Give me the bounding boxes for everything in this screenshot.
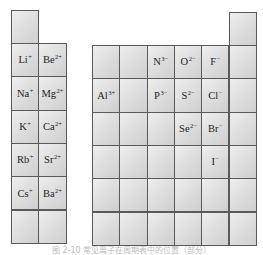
ion-cell-cl: Cl− — [201, 78, 229, 112]
empty-cell — [92, 145, 120, 179]
empty-cell — [119, 145, 147, 179]
ion-symbol: Li+ — [18, 54, 32, 66]
ion-symbol: S2− — [181, 90, 194, 102]
empty-cell — [119, 78, 147, 112]
ion-cell-br: Br− — [201, 112, 229, 146]
ion-symbol: Br− — [208, 123, 223, 135]
ion-cell-rb: Rb+ — [11, 143, 39, 177]
ion-charge: 2+ — [55, 187, 62, 194]
ion-charge: 2− — [190, 122, 197, 129]
empty-cell — [229, 212, 257, 246]
ion-charge: 2+ — [57, 87, 64, 94]
ion-cell-be: Be2+ — [38, 43, 66, 77]
ion-symbol: Be2+ — [43, 54, 62, 66]
empty-cell — [174, 212, 202, 246]
empty-cell — [229, 78, 257, 112]
ion-charge: + — [29, 187, 33, 194]
ion-charge: − — [216, 155, 220, 162]
ion-cell-cs: Cs+ — [11, 176, 39, 210]
ion-cell-li: Li+ — [11, 43, 39, 77]
empty-cell — [11, 10, 39, 44]
ion-cell-al: Al3+ — [92, 78, 120, 112]
figure-caption: 图 2-10 常见离子在周期表中的位置（部分） — [0, 246, 263, 255]
empty-cell — [92, 45, 120, 79]
ion-charge: − — [219, 89, 223, 96]
empty-cell — [147, 112, 175, 146]
empty-cell — [229, 178, 257, 212]
empty-cell — [119, 178, 147, 212]
empty-cell — [38, 210, 66, 244]
ion-charge: 3− — [160, 89, 167, 96]
ion-symbol: Sr2+ — [44, 154, 61, 166]
empty-cell — [119, 45, 147, 79]
ion-symbol: Cs+ — [18, 188, 33, 200]
ion-charge: 3− — [161, 55, 168, 62]
ion-symbol: Mg2+ — [41, 88, 63, 100]
empty-cell — [147, 145, 175, 179]
empty-cell — [147, 178, 175, 212]
ion-cell-ba: Ba2+ — [38, 176, 66, 210]
ion-symbol: K+ — [19, 121, 31, 133]
empty-cell — [92, 178, 120, 212]
ion-charge: + — [27, 120, 31, 127]
ion-cell-n: N3− — [147, 45, 175, 79]
ion-charge: 2− — [189, 55, 196, 62]
ion-charge: + — [30, 87, 34, 94]
ion-charge: − — [217, 55, 221, 62]
empty-cell — [229, 45, 257, 79]
ion-symbol: Ba2+ — [43, 188, 62, 200]
empty-cell — [92, 112, 120, 146]
empty-cell — [92, 212, 120, 246]
ion-symbol: Ca2+ — [43, 121, 62, 133]
ion-charge: − — [219, 122, 223, 129]
ion-cell-p: P3− — [147, 78, 175, 112]
ion-charge: 2+ — [55, 120, 62, 127]
ion-charge: 2− — [188, 89, 195, 96]
empty-cell — [119, 212, 147, 246]
ion-charge: + — [30, 153, 34, 160]
ion-symbol: Na+ — [17, 88, 33, 100]
empty-cell — [119, 112, 147, 146]
empty-cell — [201, 212, 229, 246]
ion-cell-sr: Sr2+ — [38, 143, 66, 177]
ion-symbol: Rb+ — [17, 154, 33, 166]
ion-cell-na: Na+ — [11, 76, 39, 110]
empty-cell — [229, 12, 257, 46]
empty-cell — [11, 210, 39, 244]
ion-cell-se: Se2− — [174, 112, 202, 146]
ion-cell-mg: Mg2+ — [38, 76, 66, 110]
ion-symbol: F− — [210, 56, 220, 68]
ion-charge: 3+ — [108, 89, 115, 96]
empty-cell — [229, 112, 257, 146]
ion-cell-f: F− — [201, 45, 229, 79]
ion-cell-o: O2− — [174, 45, 202, 79]
ion-charge: 2+ — [54, 153, 61, 160]
ion-cell-i: I− — [201, 145, 229, 179]
ion-symbol: Se2− — [179, 123, 197, 135]
ion-charge: + — [28, 53, 32, 60]
ion-symbol: N3− — [153, 56, 168, 68]
ion-cell-s: S2− — [174, 78, 202, 112]
empty-cell — [147, 212, 175, 246]
empty-cell — [201, 178, 229, 212]
ion-symbol: P3− — [154, 90, 167, 102]
empty-cell — [174, 178, 202, 212]
ion-symbol: I− — [212, 156, 220, 168]
empty-cell — [229, 145, 257, 179]
ion-symbol: Al3+ — [97, 90, 115, 102]
ion-cell-ca: Ca2+ — [38, 110, 66, 144]
ion-symbol: Cl− — [208, 90, 222, 102]
ion-charge: 2+ — [55, 53, 62, 60]
ion-cell-k: K+ — [11, 110, 39, 144]
empty-cell — [174, 145, 202, 179]
ion-symbol: O2− — [181, 56, 196, 68]
